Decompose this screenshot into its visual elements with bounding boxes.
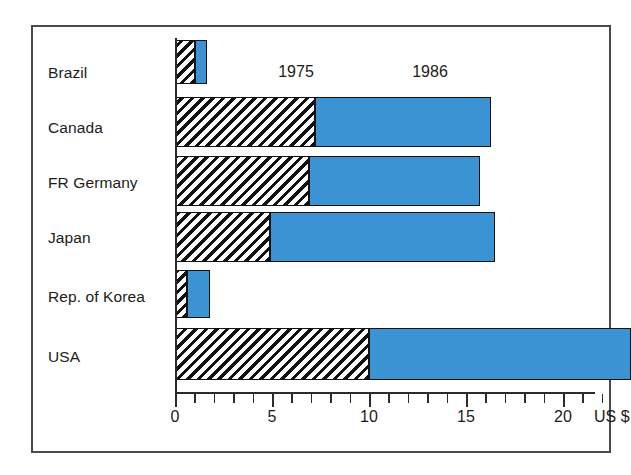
x-tick-4 xyxy=(253,394,255,403)
bar-segment-1975-japan xyxy=(175,212,270,262)
series-annotation-1975: 1975 xyxy=(278,63,314,81)
bar-segment-1975-brazil xyxy=(175,40,195,84)
category-label-usa: USA xyxy=(48,348,80,366)
x-tick-11 xyxy=(388,394,390,403)
x-tick-8 xyxy=(330,394,332,403)
bar-segment-1986-japan xyxy=(270,212,495,262)
x-tick-17 xyxy=(505,394,507,403)
x-tick-7 xyxy=(311,394,313,403)
category-label-brazil: Brazil xyxy=(48,64,87,82)
x-tick-15 xyxy=(466,394,468,407)
x-tick-5 xyxy=(272,394,274,407)
series-annotation-1986: 1986 xyxy=(412,63,448,81)
bar-segment-1975-fr-germany xyxy=(175,156,309,206)
bar-segment-1986-fr-germany xyxy=(309,156,480,206)
x-tick-16 xyxy=(485,394,487,403)
x-tick-2 xyxy=(214,394,216,403)
x-tick-19 xyxy=(544,394,546,403)
x-tick-10 xyxy=(369,394,371,407)
x-axis-unit-label: US $ xyxy=(594,408,630,426)
x-tick-label-15: 15 xyxy=(457,408,475,426)
category-label-korea: Rep. of Korea xyxy=(48,288,145,306)
bar-segment-1986-canada xyxy=(315,97,492,147)
x-tick-14 xyxy=(447,394,449,403)
category-label-canada: Canada xyxy=(48,119,103,137)
x-tick-1 xyxy=(194,394,196,403)
x-tick-13 xyxy=(427,394,429,403)
x-tick-9 xyxy=(350,394,352,403)
x-tick-6 xyxy=(291,394,293,403)
bar-segment-1986-usa xyxy=(369,328,631,380)
x-tick-label-10: 10 xyxy=(360,408,378,426)
y-axis-line xyxy=(175,38,177,394)
x-tick-label-0: 0 xyxy=(171,408,180,426)
bar-segment-1986-brazil xyxy=(195,40,207,84)
bar-segment-1975-usa xyxy=(175,328,369,380)
x-tick-label-20: 20 xyxy=(554,408,572,426)
x-tick-18 xyxy=(524,394,526,403)
x-tick-3 xyxy=(233,394,235,403)
x-axis-line xyxy=(175,392,595,394)
x-tick-20 xyxy=(563,394,565,407)
x-tick-label-5: 5 xyxy=(268,408,277,426)
category-label-japan: Japan xyxy=(48,229,91,247)
x-tick-0 xyxy=(175,394,177,407)
x-tick-12 xyxy=(408,394,410,403)
category-label-fr-germany: FR Germany xyxy=(48,174,138,192)
x-tick-21 xyxy=(582,394,584,403)
bar-segment-1986-korea xyxy=(187,270,210,318)
x-tick-22 xyxy=(602,394,604,403)
bar-segment-1975-canada xyxy=(175,97,315,147)
